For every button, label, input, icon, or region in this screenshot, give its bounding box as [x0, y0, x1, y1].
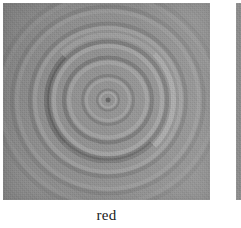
figure-root: red: [0, 0, 241, 228]
pattern-center-dot: [105, 97, 110, 102]
panel-gutter: [210, 0, 236, 228]
plate-background-next: [236, 3, 241, 200]
panel-caption-red: red: [3, 205, 210, 225]
figure-panel-red[interactable]: [3, 3, 210, 200]
figure-panel-next-cropped[interactable]: [236, 3, 241, 200]
concentric-ring-pattern: [3, 3, 210, 200]
